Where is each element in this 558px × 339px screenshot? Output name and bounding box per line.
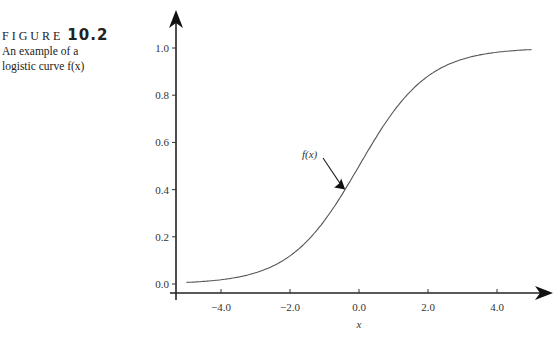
x-tick-label: −4.0 [211, 301, 231, 313]
axes: −4.0−2.00.02.04.00.00.20.40.60.81.0 [155, 10, 553, 313]
x-axis-label: x [356, 318, 362, 330]
logistic-chart: −4.0−2.00.02.04.00.00.20.40.60.81.0 f(x)… [0, 0, 558, 339]
y-tick-label: 0.0 [155, 278, 169, 290]
logistic-curve [187, 50, 532, 283]
x-tick-label: 2.0 [421, 301, 435, 313]
y-tick-label: 1.0 [155, 42, 169, 54]
x-tick-label: 4.0 [490, 301, 504, 313]
annotation-label: f(x) [302, 148, 318, 161]
annotation-arrow-icon [334, 179, 345, 190]
y-tick-label: 0.6 [155, 136, 169, 148]
y-tick-label: 0.4 [155, 184, 169, 196]
y-tick-label: 0.2 [155, 231, 169, 243]
x-tick-label: 0.0 [352, 301, 366, 313]
curve-annotation: f(x) [302, 148, 345, 190]
y-tick-label: 0.8 [155, 89, 169, 101]
x-tick-label: −2.0 [280, 301, 300, 313]
